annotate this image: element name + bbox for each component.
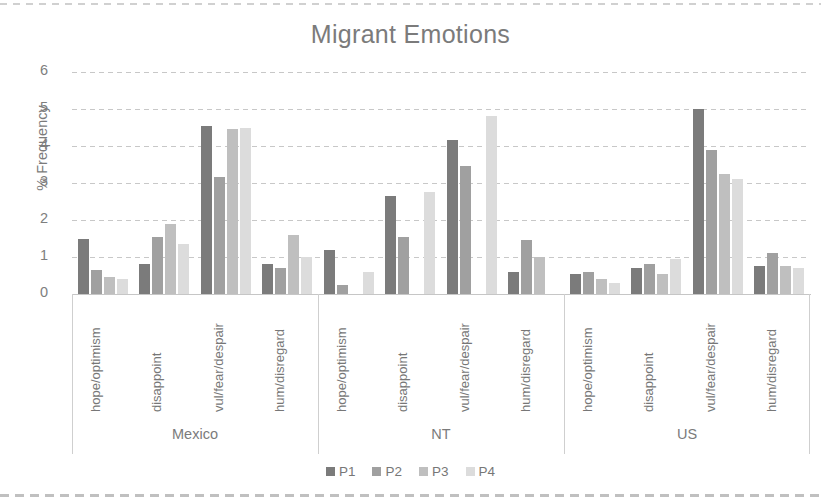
bar[interactable] (363, 272, 374, 294)
legend-item[interactable]: P4 (466, 464, 496, 479)
bar-group (626, 72, 688, 294)
bar[interactable] (152, 237, 163, 294)
group-boundary-line (318, 418, 319, 454)
category-label: hope/optimism (88, 327, 103, 412)
bar[interactable] (78, 239, 89, 295)
bar[interactable] (424, 192, 435, 294)
bar[interactable] (337, 285, 348, 294)
bar-group (749, 72, 811, 294)
bar[interactable] (706, 150, 717, 294)
legend-item[interactable]: P2 (372, 464, 402, 479)
category-label-cell: hum/disregard (257, 294, 319, 418)
bar[interactable] (301, 257, 312, 294)
bar[interactable] (139, 264, 150, 294)
legend-swatch-icon (372, 467, 381, 476)
scan-artifact-bottom (0, 494, 821, 497)
bar[interactable] (262, 264, 273, 294)
bar[interactable] (288, 235, 299, 294)
legend-label: P4 (479, 464, 496, 479)
bar[interactable] (780, 266, 791, 294)
bar[interactable] (214, 177, 225, 294)
legend-item[interactable]: P3 (419, 464, 449, 479)
category-label: hum/disregard (764, 329, 779, 412)
bar[interactable] (178, 244, 189, 294)
category-label-cell: hum/disregard (503, 294, 565, 418)
bar-group (380, 72, 442, 294)
bar[interactable] (657, 274, 668, 294)
bar[interactable] (767, 253, 778, 294)
group-label: US (564, 418, 810, 454)
bar[interactable] (609, 283, 620, 294)
bar[interactable] (583, 272, 594, 294)
bar[interactable] (201, 126, 212, 294)
bar[interactable] (447, 140, 458, 294)
category-label: hum/disregard (518, 329, 533, 412)
category-label-cell: vul/fear/despair (441, 294, 503, 418)
group-boundary-line (564, 418, 565, 454)
bar[interactable] (570, 274, 581, 294)
bar[interactable] (508, 272, 519, 294)
group-label: Mexico (72, 418, 318, 454)
chart-legend: P1P2P3P4 (0, 464, 821, 479)
category-label: disappoint (395, 353, 410, 412)
bar[interactable] (521, 240, 532, 294)
group-boundary-line (318, 294, 319, 418)
legend-label: P3 (432, 464, 449, 479)
bar[interactable] (324, 250, 335, 294)
bar[interactable] (275, 268, 286, 294)
bar[interactable] (227, 129, 238, 294)
bar[interactable] (596, 279, 607, 294)
y-axis-tick-label: 1 (8, 247, 48, 263)
bar[interactable] (104, 277, 115, 294)
y-axis-tick-label: 6 (8, 62, 48, 78)
y-axis-tick-label: 2 (8, 210, 48, 226)
bar[interactable] (732, 179, 743, 294)
category-label: hope/optimism (334, 327, 349, 412)
category-label-cell: disappoint (626, 294, 688, 418)
group-boundary-line (809, 294, 810, 418)
bar[interactable] (398, 237, 409, 294)
y-axis-tick-label: 3 (8, 173, 48, 189)
bar[interactable] (460, 166, 471, 294)
bar-group (503, 72, 565, 294)
group-boundary-line (72, 294, 73, 418)
bar[interactable] (670, 259, 681, 294)
category-label-cell: hope/optimism (564, 294, 626, 418)
category-label-cell: hum/disregard (749, 294, 811, 418)
bar[interactable] (631, 268, 642, 294)
bar[interactable] (793, 268, 804, 294)
category-label-cell: hope/optimism (72, 294, 134, 418)
bar[interactable] (385, 196, 396, 294)
bar[interactable] (240, 128, 251, 295)
legend-item[interactable]: P1 (326, 464, 356, 479)
plot-area: 6543210 (72, 72, 810, 294)
bar[interactable] (754, 266, 765, 294)
category-label-cell: disappoint (380, 294, 442, 418)
bar[interactable] (534, 257, 545, 294)
chart-container: Migrant Emotions % Frequency 6543210 hop… (0, 0, 821, 503)
group-label: NT (318, 418, 564, 454)
category-label-cell: hope/optimism (318, 294, 380, 418)
category-label: hum/disregard (272, 329, 287, 412)
bar[interactable] (165, 224, 176, 294)
legend-label: P1 (339, 464, 356, 479)
category-label-cell: vul/fear/despair (687, 294, 749, 418)
category-label: disappoint (149, 353, 164, 412)
bar[interactable] (91, 270, 102, 294)
bar-group (134, 72, 196, 294)
group-boundary-line (809, 418, 810, 454)
category-label: vul/fear/despair (703, 323, 718, 412)
bar[interactable] (117, 279, 128, 294)
bar[interactable] (486, 116, 497, 294)
bar[interactable] (693, 109, 704, 294)
bar-group (318, 72, 380, 294)
bar-group (441, 72, 503, 294)
bar[interactable] (719, 174, 730, 294)
y-axis-tick-label: 0 (8, 284, 48, 300)
bar[interactable] (644, 264, 655, 294)
bar-group (72, 72, 134, 294)
y-axis-tick-label: 4 (8, 136, 48, 152)
group-label-band: MexicoNTUS (72, 418, 811, 454)
group-boundary-line (564, 294, 565, 418)
bar-group (687, 72, 749, 294)
